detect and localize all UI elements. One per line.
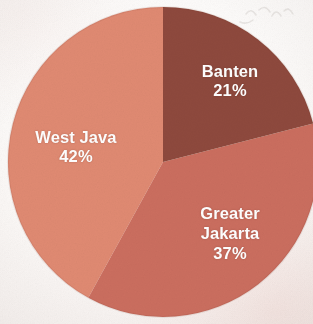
pie-svg: [0, 0, 313, 324]
pie-chart-plot-area: [0, 0, 313, 324]
pie-chart-figure: Banten 21% Greater Jakarta 37% West Java…: [0, 0, 313, 324]
